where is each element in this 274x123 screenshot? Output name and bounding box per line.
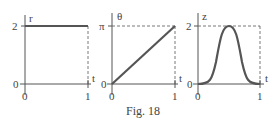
- y-label: θ: [117, 10, 122, 22]
- x-label: t: [265, 72, 268, 84]
- y-tick-zero: 0: [187, 78, 193, 90]
- y-tick-top: 2: [186, 20, 192, 32]
- x-label: t: [92, 72, 95, 84]
- x-label: t: [179, 72, 182, 84]
- panel-r: r 2 0 t 0 1: [12, 12, 95, 102]
- y-label: z: [202, 10, 207, 22]
- x-tick-zero: 0: [22, 90, 28, 102]
- x-tick-zero: 0: [109, 90, 115, 102]
- y-label: r: [29, 12, 33, 24]
- panel-theta: θ π 0 t 0 1: [99, 10, 182, 102]
- figure-caption: Fig. 18: [126, 104, 160, 118]
- x-tick-one: 1: [257, 90, 263, 102]
- y-tick-top: π: [99, 20, 105, 32]
- theta-curve: [112, 26, 175, 84]
- x-tick-one: 1: [85, 90, 91, 102]
- x-tick-zero: 0: [195, 90, 201, 102]
- y-tick-top: 2: [12, 20, 18, 32]
- y-tick-zero: 0: [101, 78, 107, 90]
- figure-18: r 2 0 t 0 1 θ π 0 t 0 1 z 2 0 t 0 1: [0, 0, 274, 123]
- y-tick-zero: 0: [13, 78, 19, 90]
- panel-z: z 2 0 t 0 1: [186, 10, 268, 102]
- x-tick-one: 1: [172, 90, 178, 102]
- z-curve: [198, 26, 260, 84]
